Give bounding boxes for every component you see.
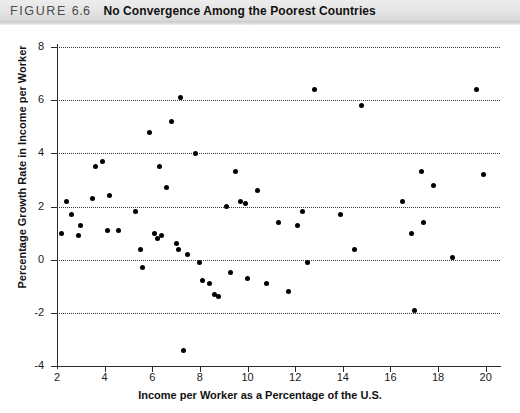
data-point xyxy=(338,212,343,217)
data-point xyxy=(181,348,186,353)
data-point xyxy=(174,241,179,246)
data-point xyxy=(286,289,291,294)
y-axis-tick xyxy=(51,366,57,367)
figure-title: No Convergence Among the Poorest Countri… xyxy=(103,4,375,18)
data-point xyxy=(107,193,112,198)
data-point xyxy=(78,223,83,228)
data-point xyxy=(64,199,69,204)
y-axis-tick-label: 4 xyxy=(14,147,44,158)
figure-container: FIGURE 6.6 No Convergence Among the Poor… xyxy=(0,0,520,413)
data-point xyxy=(157,164,162,169)
y-axis-tick-label: 0 xyxy=(14,254,44,265)
scatter-plot-area xyxy=(57,47,500,366)
y-axis-tick xyxy=(51,100,57,101)
x-axis-line xyxy=(57,366,501,367)
data-point xyxy=(185,252,190,257)
x-axis-tick-label: 20 xyxy=(473,372,499,383)
figure-number: 6.6 xyxy=(72,4,91,18)
y-axis-tick xyxy=(51,153,57,154)
y-axis-tick xyxy=(51,207,57,208)
y-axis-tick-label: -2 xyxy=(14,307,44,318)
data-point xyxy=(159,233,164,238)
data-point xyxy=(264,281,269,286)
x-axis-tick-label: 2 xyxy=(44,372,70,383)
data-point xyxy=(200,278,205,283)
data-point xyxy=(133,209,138,214)
data-point xyxy=(69,212,74,217)
y-axis-tick-label: 8 xyxy=(14,41,44,52)
data-point xyxy=(352,247,357,252)
x-axis-tick-label: 6 xyxy=(139,372,165,383)
data-point xyxy=(312,87,317,92)
data-point xyxy=(207,281,212,286)
figure-label: FIGURE xyxy=(10,4,67,18)
data-point xyxy=(216,294,221,299)
data-point xyxy=(116,228,121,233)
y-axis-title: Percentage Growth Rate in Income per Wor… xyxy=(16,12,28,322)
data-point xyxy=(419,169,424,174)
gridline-y xyxy=(57,260,500,261)
y-axis-tick xyxy=(51,47,57,48)
figure-header: FIGURE 6.6 No Convergence Among the Poor… xyxy=(0,0,520,21)
data-point xyxy=(93,164,98,169)
data-point xyxy=(421,220,426,225)
data-point xyxy=(147,130,152,135)
data-point xyxy=(228,270,233,275)
y-axis-tick xyxy=(51,260,57,261)
x-axis-tick-label: 18 xyxy=(425,372,451,383)
header-divider xyxy=(0,21,520,25)
gridline-y xyxy=(57,313,500,314)
gridline-y xyxy=(57,207,500,208)
data-point xyxy=(412,308,417,313)
data-point xyxy=(295,223,300,228)
data-point xyxy=(176,247,181,252)
y-axis-tick-label: 6 xyxy=(14,94,44,105)
data-point xyxy=(233,169,238,174)
data-point xyxy=(152,231,157,236)
data-point xyxy=(305,260,310,265)
data-point xyxy=(400,199,405,204)
data-point xyxy=(255,188,260,193)
data-point xyxy=(140,265,145,270)
data-point xyxy=(90,196,95,201)
y-axis-tick xyxy=(51,313,57,314)
x-axis-title: Income per Worker as a Percentage of the… xyxy=(0,389,520,401)
data-point xyxy=(169,119,174,124)
x-axis-tick-label: 12 xyxy=(282,372,308,383)
data-point xyxy=(474,87,479,92)
data-point xyxy=(193,151,198,156)
data-point xyxy=(100,159,105,164)
data-point xyxy=(276,220,281,225)
y-axis-tick-label: -4 xyxy=(14,360,44,371)
gridline-y xyxy=(57,100,500,101)
data-point xyxy=(481,172,486,177)
y-axis-tick-label: 2 xyxy=(14,201,44,212)
data-point xyxy=(197,260,202,265)
data-point xyxy=(76,233,81,238)
x-axis-tick-label: 8 xyxy=(187,372,213,383)
data-point xyxy=(224,204,229,209)
data-point xyxy=(105,228,110,233)
x-axis-tick-label: 16 xyxy=(377,372,403,383)
gridline-y xyxy=(57,47,500,48)
x-axis-tick-label: 14 xyxy=(330,372,356,383)
data-point xyxy=(450,255,455,260)
data-point xyxy=(138,247,143,252)
data-point xyxy=(164,185,169,190)
data-point xyxy=(431,183,436,188)
data-point xyxy=(300,209,305,214)
x-axis-tick-label: 10 xyxy=(235,372,261,383)
x-axis-tick-label: 4 xyxy=(92,372,118,383)
gridline-y xyxy=(57,153,500,154)
data-point xyxy=(59,231,64,236)
data-point xyxy=(245,276,250,281)
data-point xyxy=(359,103,364,108)
data-point xyxy=(409,231,414,236)
